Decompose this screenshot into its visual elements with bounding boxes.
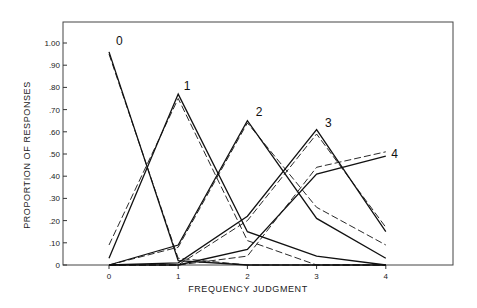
y-tick-label: 0 [56, 261, 61, 270]
y-tick-label: .10 [49, 239, 61, 248]
y-axis: 0.10.20.30.40.50.60.70.80.901.00 [44, 39, 67, 270]
x-axis: 01234 [107, 265, 389, 281]
x-tick-label: 0 [107, 272, 112, 281]
line-chart: 0.10.20.30.40.50.60.70.80.901.00 01234 0… [0, 0, 477, 308]
x-tick-label: 2 [245, 272, 250, 281]
y-tick-label: .90 [49, 61, 61, 70]
x-tick-label: 1 [176, 272, 181, 281]
y-tick-label: .60 [49, 128, 61, 137]
curve-label-1: 1 [184, 79, 191, 93]
y-tick-label: .40 [49, 172, 61, 181]
series-layer [109, 52, 386, 265]
y-tick-label: .50 [49, 150, 61, 159]
y-tick-label: .80 [49, 83, 61, 92]
x-axis-title: FREQUENCY JUDGMENT [188, 284, 308, 294]
series-3-solid [109, 130, 386, 265]
series-4-dashed [109, 152, 386, 265]
x-tick-label: 4 [384, 272, 389, 281]
curve-label-2: 2 [256, 105, 263, 119]
y-tick-label: .20 [49, 217, 61, 226]
series-2-solid [109, 121, 386, 265]
curve-label-3: 3 [325, 116, 332, 130]
y-tick-label: 1.00 [44, 39, 60, 48]
y-tick-label: .70 [49, 106, 61, 115]
series-2-dashed [109, 123, 386, 265]
y-axis-title: PROPORTION OF RESPONSES [22, 81, 32, 229]
x-tick-label: 3 [314, 272, 319, 281]
curve-label-0: 0 [116, 34, 123, 48]
series-4-solid [109, 156, 386, 265]
curve-label-4: 4 [391, 147, 398, 161]
series-3-dashed [109, 134, 386, 265]
y-tick-label: .30 [49, 194, 61, 203]
